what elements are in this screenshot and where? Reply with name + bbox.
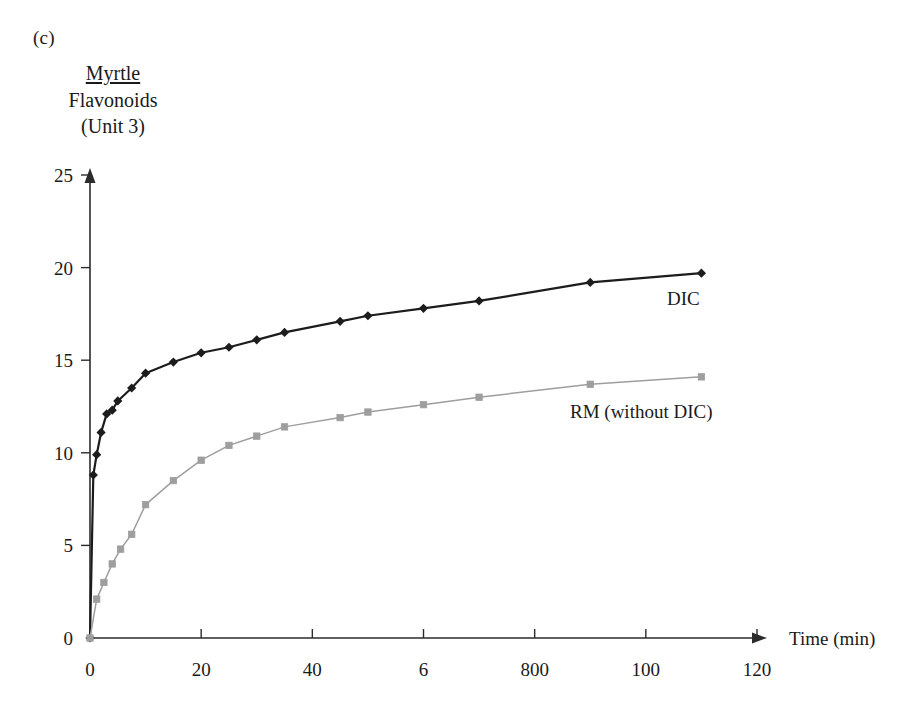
- x-tick-label: 100: [632, 659, 661, 680]
- data-point-marker: [336, 317, 345, 326]
- data-point-marker: [363, 311, 372, 320]
- y-axis-ticks: [81, 175, 90, 545]
- x-axis-arrowhead: [752, 633, 767, 644]
- x-tick-label: 120: [743, 659, 772, 680]
- data-point-marker: [169, 357, 178, 366]
- x-tick-label: 0: [85, 659, 95, 680]
- data-point-marker: [224, 343, 233, 352]
- data-point-marker: [365, 409, 371, 415]
- data-point-marker: [474, 296, 483, 305]
- data-point-marker: [198, 457, 204, 463]
- x-tick-label: 6: [419, 659, 429, 680]
- data-point-marker: [117, 546, 123, 552]
- data-point-marker: [197, 348, 206, 357]
- y-tick-label: 20: [54, 258, 73, 279]
- y-tick-label: 5: [64, 535, 74, 556]
- series-line: [90, 273, 701, 638]
- y-tick-label: 10: [54, 443, 73, 464]
- data-point-marker: [280, 328, 289, 337]
- series-dic: [85, 269, 706, 643]
- data-point-marker: [476, 394, 482, 400]
- data-point-marker: [281, 424, 287, 430]
- series-label-rm: RM (without DIC): [570, 401, 713, 423]
- series-label-dic: DIC: [667, 288, 700, 309]
- x-axis-caption: Time (min): [789, 628, 875, 650]
- y-tick-label: 25: [54, 165, 73, 186]
- data-point-marker: [420, 401, 426, 407]
- data-point-marker: [92, 450, 101, 459]
- x-tick-label: 800: [520, 659, 549, 680]
- data-point-marker: [337, 414, 343, 420]
- line-chart-plot: 0510152025 020406800100120 Time (min) DI…: [0, 0, 916, 709]
- data-point-marker: [87, 635, 93, 641]
- data-point-marker: [254, 433, 260, 439]
- data-point-marker: [698, 374, 704, 380]
- data-point-marker: [697, 269, 706, 278]
- data-point-marker: [170, 477, 176, 483]
- data-point-marker: [93, 596, 99, 602]
- y-tick-label: 15: [54, 350, 73, 371]
- figure-panel-c: (c) Myrtle Flavonoids (Unit 3) 051015202…: [0, 0, 916, 709]
- data-point-marker: [109, 561, 115, 567]
- data-point-marker: [142, 501, 148, 507]
- data-point-marker: [586, 278, 595, 287]
- data-point-marker: [97, 428, 106, 437]
- y-tick-label: 0: [64, 628, 74, 649]
- data-series-layer: [85, 269, 706, 643]
- x-tick-label: 20: [192, 659, 211, 680]
- x-tick-label: 40: [303, 659, 322, 680]
- data-point-marker: [226, 442, 232, 448]
- x-axis-ticks: [201, 629, 757, 638]
- x-axis-tick-labels: 020406800100120: [85, 659, 771, 680]
- data-point-marker: [252, 335, 261, 344]
- data-point-marker: [101, 579, 107, 585]
- y-axis-tick-labels: 0510152025: [54, 165, 73, 649]
- data-point-marker: [587, 381, 593, 387]
- data-point-marker: [419, 304, 428, 313]
- data-point-marker: [128, 531, 134, 537]
